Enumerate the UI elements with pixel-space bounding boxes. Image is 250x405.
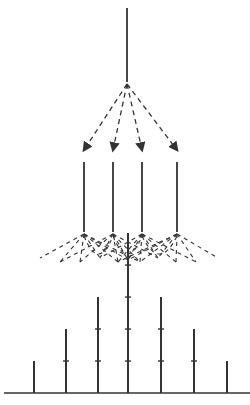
merge-arrow [140, 234, 142, 262]
split-arrow-1 [84, 84, 127, 150]
merge-arrow [113, 234, 158, 258]
merge-arrow [80, 234, 84, 262]
merge-loop-1 [84, 236, 113, 254]
merge-arrow [140, 234, 177, 262]
branch-lines [84, 162, 177, 232]
split-arrows [84, 84, 177, 150]
merge-loop-3 [142, 236, 177, 254]
merge-arrow [40, 234, 84, 258]
split-arrow-4 [127, 84, 177, 150]
merge-arrow [177, 234, 218, 258]
merge-arrow [177, 234, 196, 262]
branching-diagram [0, 0, 250, 405]
